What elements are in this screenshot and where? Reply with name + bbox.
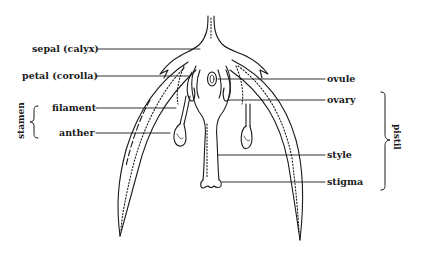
label-anther: anther <box>59 128 94 138</box>
right-petal <box>230 60 303 240</box>
leader-lines <box>96 49 325 182</box>
label-stigma: stigma <box>327 177 363 187</box>
label-style: style <box>327 150 352 160</box>
label-ovary: ovary <box>327 95 356 105</box>
label-filament: filament <box>52 103 96 113</box>
label-ovule: ovule <box>327 74 355 84</box>
left-petal <box>118 62 196 236</box>
stem <box>180 16 246 56</box>
sepals <box>160 56 268 78</box>
ovule-shape <box>208 72 217 86</box>
label-petal: petal (corolla) <box>22 71 98 81</box>
group-label-pistil: pistil <box>392 124 401 150</box>
label-sepal: sepal (calyx) <box>32 44 99 54</box>
group-label-stamen: stamen <box>17 102 26 139</box>
stamen-bracket <box>30 106 38 138</box>
left-stamen <box>174 96 190 146</box>
right-stamen <box>241 104 252 149</box>
stigma-shape <box>201 180 222 188</box>
flower-diagram: sepal (calyx) petal (corolla) filament a… <box>0 0 422 260</box>
pistil-bracket <box>381 92 390 190</box>
